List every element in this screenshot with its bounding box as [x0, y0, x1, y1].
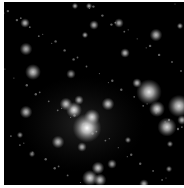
faint-source [127, 156, 128, 157]
faint-source [165, 177, 166, 178]
faint-source [61, 108, 62, 109]
galaxy [102, 98, 115, 111]
faint-source [139, 163, 141, 165]
faint-source [54, 40, 56, 42]
faint-source [146, 47, 147, 48]
galaxy [74, 95, 84, 105]
sky-field [4, 2, 184, 185]
galaxy [72, 3, 78, 9]
galaxy [92, 162, 105, 175]
faint-source [54, 167, 56, 169]
galaxy [166, 166, 172, 172]
galaxy [66, 69, 76, 79]
galaxy [25, 64, 41, 80]
faint-source [92, 5, 94, 7]
galaxy [150, 29, 163, 42]
galaxy [167, 141, 173, 147]
faint-source [4, 12, 5, 13]
galaxy [82, 32, 88, 38]
faint-source [123, 31, 125, 33]
galaxy [157, 117, 176, 136]
faint-source [137, 38, 138, 39]
galaxy [77, 142, 87, 152]
faint-source [63, 49, 65, 51]
faint-source [86, 66, 88, 68]
galaxy [125, 137, 131, 143]
galaxy [20, 43, 33, 56]
faint-source [16, 19, 18, 21]
faint-source [177, 128, 179, 130]
faint-source [80, 182, 81, 183]
galaxy [20, 18, 30, 28]
faint-source [51, 43, 52, 44]
faint-source [82, 123, 84, 125]
faint-source [29, 26, 31, 28]
galaxy [132, 78, 142, 88]
faint-source [158, 54, 160, 56]
galaxy [149, 101, 165, 117]
faint-source [168, 119, 170, 121]
faint-source [99, 73, 100, 74]
galaxy [168, 95, 184, 117]
faint-source [39, 91, 41, 93]
faint-source [156, 112, 157, 113]
faint-source [149, 45, 151, 47]
faint-source [181, 126, 183, 128]
faint-source [67, 175, 69, 177]
faint-source [91, 132, 93, 134]
faint-source [10, 135, 12, 137]
faint-source [118, 147, 119, 148]
faint-source [38, 35, 40, 37]
galaxy [17, 132, 23, 138]
faint-source [57, 109, 59, 111]
faint-source [180, 70, 182, 72]
faint-source [19, 144, 21, 146]
faint-source [48, 100, 50, 102]
faint-source [109, 138, 110, 139]
galaxy [177, 23, 183, 29]
faint-source [174, 3, 175, 4]
faint-source [26, 84, 28, 86]
faint-source [96, 131, 98, 133]
faint-source [120, 89, 122, 91]
faint-source [114, 22, 116, 24]
faint-source [45, 158, 47, 160]
galaxy [84, 109, 100, 125]
galaxy [29, 151, 35, 157]
faint-source [128, 29, 129, 30]
faint-source [142, 105, 144, 107]
faint-source [110, 23, 112, 25]
faint-source [20, 17, 22, 19]
faint-source [58, 166, 60, 168]
faint-source [161, 179, 163, 181]
galaxy [139, 179, 149, 185]
faint-source [105, 140, 107, 142]
faint-source [130, 154, 132, 156]
galaxy [52, 136, 65, 149]
galaxy [120, 48, 130, 58]
faint-source [70, 117, 71, 118]
galaxy [20, 106, 33, 119]
faint-source [101, 14, 103, 16]
faint-source [32, 152, 33, 153]
faint-source [73, 114, 75, 116]
faint-source [42, 34, 43, 35]
faint-source [152, 170, 154, 172]
galaxy [107, 159, 117, 169]
faint-source [171, 61, 173, 63]
faint-source [23, 143, 24, 144]
faint-source [165, 121, 166, 122]
faint-source [13, 78, 14, 79]
faint-source [72, 58, 74, 60]
faint-source [77, 57, 79, 59]
faint-source [111, 80, 113, 82]
faint-source [7, 10, 9, 12]
faint-source [147, 103, 148, 104]
faint-source [4, 69, 5, 70]
faint-source [133, 96, 135, 98]
faint-source [108, 82, 109, 83]
galaxy-cluster-image [4, 2, 184, 185]
galaxy [89, 20, 99, 30]
faint-source [35, 93, 37, 95]
faint-source [89, 8, 90, 9]
